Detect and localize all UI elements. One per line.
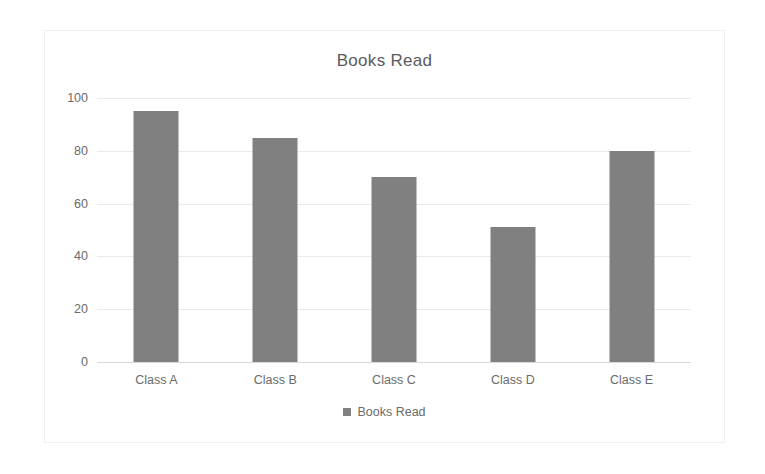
bar[interactable] xyxy=(253,138,298,362)
chart-frame: Books Read 020406080100Class AClass BCla… xyxy=(44,30,725,443)
bar-group-class-a: Class A xyxy=(97,98,216,362)
x-axis-tick-label: Class D xyxy=(491,373,535,387)
y-axis-tick-label: 20 xyxy=(74,302,88,316)
x-axis-tick-label: Class C xyxy=(372,373,416,387)
chart-title: Books Read xyxy=(45,51,724,71)
bar[interactable] xyxy=(609,151,654,362)
y-axis-tick-label: 0 xyxy=(81,355,88,369)
legend-swatch-icon xyxy=(343,408,351,416)
x-axis-tick-label: Class A xyxy=(135,373,177,387)
bar-group-class-e: Class E xyxy=(572,98,691,362)
y-axis-tick-label: 100 xyxy=(67,91,88,105)
y-axis-tick-label: 40 xyxy=(74,249,88,263)
legend-label: Books Read xyxy=(357,405,425,419)
bar[interactable] xyxy=(490,227,535,362)
gridline-0 xyxy=(97,362,691,363)
bar[interactable] xyxy=(134,111,179,362)
chart-legend: Books Read xyxy=(45,405,724,419)
bar-group-class-b: Class B xyxy=(216,98,335,362)
bar-group-class-c: Class C xyxy=(335,98,454,362)
x-axis-tick-label: Class B xyxy=(254,373,297,387)
y-axis-tick-label: 80 xyxy=(74,144,88,158)
y-axis-tick-label: 60 xyxy=(74,197,88,211)
plot-area: 020406080100Class AClass BClass CClass D… xyxy=(97,98,691,362)
bar[interactable] xyxy=(371,177,416,362)
bar-group-class-d: Class D xyxy=(453,98,572,362)
x-axis-tick-label: Class E xyxy=(610,373,653,387)
